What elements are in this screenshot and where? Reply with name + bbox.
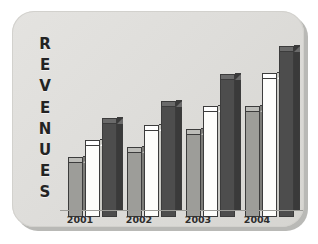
bar-top-face	[102, 118, 117, 124]
bar-2003-series-2	[203, 111, 218, 217]
bar-side-face	[235, 73, 241, 211]
bar-side-face	[294, 45, 300, 211]
bar-side-face	[117, 117, 123, 211]
x-tick-label-2003: 2003	[168, 214, 228, 225]
bar-2002-series-1	[127, 152, 142, 217]
bar-front-face	[203, 111, 218, 217]
bar-top-face	[161, 101, 176, 107]
bar-2002-series-2	[144, 130, 159, 217]
bar-front-face	[127, 152, 142, 217]
bar-top-face	[262, 73, 277, 79]
axis-title-letter-e3: E	[40, 164, 50, 179]
bar-group-2004	[245, 34, 301, 217]
bar-front-face	[161, 106, 176, 217]
bar-front-face	[102, 123, 117, 217]
bar-2002-series-3	[161, 106, 176, 217]
bar-2001-series-3	[102, 123, 117, 217]
bar-side-face	[176, 100, 182, 211]
revenues-chart-card: R E V E N U E S 2001 2002 2003 2004	[12, 11, 304, 227]
bar-front-face	[85, 145, 100, 217]
x-axis-line	[60, 210, 303, 211]
x-tick-label-2002: 2002	[109, 214, 169, 225]
x-tick-label-2004: 2004	[227, 214, 287, 225]
bar-front-face	[245, 111, 260, 217]
bar-front-face	[186, 134, 201, 217]
bar-front-face	[262, 78, 277, 217]
bar-2001-series-2	[85, 145, 100, 217]
bar-top-face	[85, 140, 100, 146]
bar-group-2002	[127, 34, 183, 217]
axis-title-letter-e2: E	[40, 101, 50, 116]
axis-title-letter-v: V	[39, 79, 51, 94]
bar-top-face	[220, 74, 235, 80]
y-axis-title: R E V E N U E S	[32, 37, 58, 207]
bar-front-face	[68, 162, 83, 217]
bar-2001-series-1	[68, 162, 83, 217]
plot-area	[60, 27, 304, 217]
bar-group-2003	[186, 34, 242, 217]
bar-top-face	[203, 106, 218, 112]
axis-title-letter-u: U	[39, 143, 51, 158]
axis-title-letter-r: R	[39, 37, 51, 52]
bar-2004-series-3	[279, 51, 294, 217]
bar-group-2001	[68, 34, 124, 217]
bar-front-face	[279, 51, 294, 217]
bar-2004-series-1	[245, 111, 260, 217]
bar-top-face	[245, 106, 260, 112]
axis-title-letter-n: N	[39, 122, 52, 137]
axis-title-letter-e1: E	[40, 58, 50, 73]
bar-front-face	[220, 79, 235, 217]
bar-top-face	[186, 129, 201, 135]
bar-top-face	[68, 157, 83, 163]
bar-front-face	[144, 130, 159, 217]
bar-2003-series-3	[220, 79, 235, 217]
bar-top-face	[279, 46, 294, 52]
chart-image: R E V E N U E S 2001 2002 2003 2004	[0, 0, 318, 244]
axis-title-letter-s: S	[40, 185, 51, 200]
bar-2003-series-1	[186, 134, 201, 217]
bar-top-face	[127, 147, 142, 153]
bar-top-face	[144, 125, 159, 131]
bar-2004-series-2	[262, 78, 277, 217]
x-tick-label-2001: 2001	[50, 214, 110, 225]
